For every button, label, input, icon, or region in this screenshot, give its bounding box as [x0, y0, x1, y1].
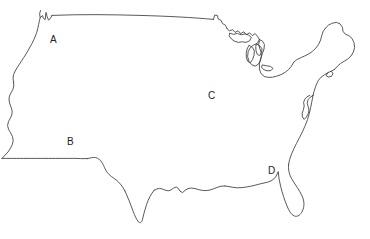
- map-label-b: B: [67, 137, 74, 147]
- border-rio-grande: [88, 157, 125, 191]
- shore-lake-ontario: [294, 28, 326, 62]
- coast-florida-peninsula: [278, 164, 304, 216]
- map-label-c: C: [208, 91, 215, 101]
- coast-california-south: [2, 82, 14, 158]
- map-label-d: D: [268, 166, 275, 176]
- coast-gulf-louisiana: [154, 186, 225, 193]
- lake-huron-outline: [256, 44, 262, 56]
- lake-erie-outline: [262, 65, 273, 71]
- great-lakes-group: [229, 33, 273, 71]
- us-map-figure: A B C D: [0, 0, 370, 239]
- border-minnesota-northwest-angle: [214, 15, 228, 28]
- coast-pacific-northwest: [40, 11, 52, 21]
- coast-carolinas: [289, 95, 313, 164]
- coast-long-island-new-jersey: [313, 73, 328, 96]
- coast-california-north-oregon: [13, 18, 40, 83]
- lake-superior-outline: [229, 33, 251, 42]
- border-canada-northern: [52, 15, 214, 20]
- coast-maine: [326, 22, 355, 69]
- shore-lake-huron-erie: [259, 40, 293, 78]
- coast-texas-gulf: [125, 190, 154, 223]
- coast-chesapeake-bay: [302, 95, 313, 119]
- map-label-a: A: [50, 35, 57, 45]
